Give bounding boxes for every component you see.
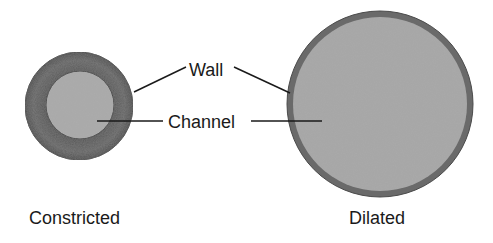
channel-label: Channel bbox=[168, 112, 235, 132]
wall-leader-right bbox=[234, 67, 290, 93]
dilated-channel bbox=[293, 17, 467, 191]
wall-leader-left bbox=[134, 67, 186, 92]
vessel-diagram: Wall Channel Constricted Dilated bbox=[0, 0, 493, 243]
constricted-caption: Constricted bbox=[29, 208, 120, 228]
constricted-vessel bbox=[25, 52, 133, 160]
wall-label: Wall bbox=[189, 60, 223, 80]
dilated-vessel bbox=[287, 11, 473, 197]
constricted-channel bbox=[46, 71, 114, 139]
dilated-caption: Dilated bbox=[349, 208, 405, 228]
